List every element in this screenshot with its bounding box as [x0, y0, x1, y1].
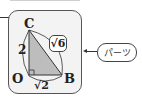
parts-callout-label: パーツ [97, 43, 137, 62]
side-label-ob: √2 [34, 80, 49, 91]
callout-arrowhead-icon [83, 49, 87, 53]
side-label-cb: √6 [49, 35, 67, 52]
vertex-label-c: C [24, 17, 34, 30]
side-label-oc: 2 [18, 44, 26, 56]
vertex-label-o: O [12, 72, 23, 85]
vertex-label-b: B [64, 72, 75, 85]
